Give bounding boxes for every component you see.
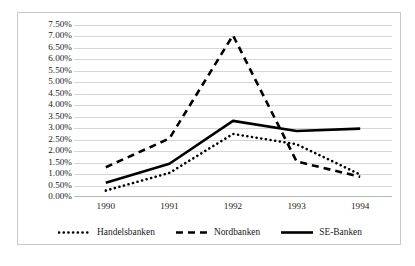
legend-label: Handelsbanken bbox=[97, 227, 155, 237]
y-axis-tick-label: 6.50% bbox=[26, 43, 72, 52]
legend-label: SE-Banken bbox=[319, 227, 362, 237]
y-axis-tick-label: 4.50% bbox=[26, 89, 72, 98]
dashed-line-marker bbox=[175, 228, 209, 237]
series-line-handelsbanken bbox=[106, 134, 360, 191]
x-axis: 19901991199219931994 bbox=[74, 201, 392, 219]
legend-item-nordbanken[interactable]: Nordbanken bbox=[175, 227, 260, 237]
x-axis-tick-label: 1993 bbox=[287, 201, 305, 211]
dotted-line-marker bbox=[58, 228, 92, 237]
solid-line-marker bbox=[280, 228, 314, 237]
y-axis-tick-label: 6.00% bbox=[26, 55, 72, 64]
legend-label: Nordbanken bbox=[214, 227, 260, 237]
series-lines bbox=[74, 25, 392, 197]
chart-plot-wrapper: 0.00%0.50%1.00%1.50%2.00%2.50%3.00%3.50%… bbox=[18, 13, 402, 246]
y-axis-tick-label: 0.50% bbox=[26, 181, 72, 190]
y-axis-tick-label: 5.50% bbox=[26, 66, 72, 75]
y-axis-tick-label: 0.00% bbox=[26, 192, 72, 201]
x-axis-tick-label: 1992 bbox=[224, 201, 242, 211]
y-axis-tick-label: 2.50% bbox=[26, 135, 72, 144]
series-line-se-banken bbox=[106, 121, 360, 183]
legend-item-se-banken[interactable]: SE-Banken bbox=[280, 227, 362, 237]
x-axis-tick-label: 1991 bbox=[160, 201, 178, 211]
y-axis-tick-label: 3.00% bbox=[26, 124, 72, 133]
series-line-nordbanken bbox=[106, 35, 360, 177]
legend-item-handelsbanken[interactable]: Handelsbanken bbox=[58, 227, 155, 237]
y-axis: 0.00%0.50%1.00%1.50%2.00%2.50%3.00%3.50%… bbox=[22, 13, 72, 246]
x-axis-tick-label: 1990 bbox=[97, 201, 115, 211]
y-axis-tick-label: 7.50% bbox=[26, 20, 72, 29]
plot-area bbox=[74, 25, 392, 197]
chart-legend: HandelsbankenNordbankenSE-Banken bbox=[18, 227, 402, 237]
y-axis-tick-label: 1.50% bbox=[26, 158, 72, 167]
y-axis-tick-label: 2.00% bbox=[26, 147, 72, 156]
y-axis-tick-label: 7.00% bbox=[26, 32, 72, 41]
chart-container: 0.00%0.50%1.00%1.50%2.00%2.50%3.00%3.50%… bbox=[17, 12, 401, 245]
y-axis-tick-label: 5.00% bbox=[26, 78, 72, 87]
y-axis-tick-label: 1.00% bbox=[26, 169, 72, 178]
x-axis-tick-label: 1994 bbox=[351, 201, 369, 211]
y-axis-tick-label: 3.50% bbox=[26, 112, 72, 121]
y-axis-tick-label: 4.00% bbox=[26, 101, 72, 110]
